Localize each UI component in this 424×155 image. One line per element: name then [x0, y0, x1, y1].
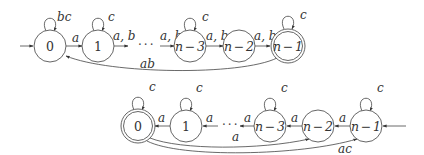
- state-label: n − 3: [255, 119, 285, 134]
- edge-label-1-0: a: [158, 111, 165, 125]
- self-loop-1: [180, 98, 191, 111]
- loop-label-0: c: [149, 80, 156, 94]
- state-label: n − 2: [303, 119, 333, 134]
- edge-label-dots-1: a: [206, 111, 213, 125]
- self-loop-0: [132, 97, 143, 110]
- state-label: 1: [182, 119, 190, 134]
- self-loop-0: [44, 18, 55, 31]
- edge-label-0-1: a: [72, 31, 79, 45]
- state-n-2: n − 2: [302, 110, 334, 142]
- self-loop-n-1: [360, 98, 371, 111]
- edge-label-1-dots: a, b: [113, 29, 135, 43]
- loop-label-1: c: [196, 81, 203, 95]
- state-1: 1: [170, 110, 202, 142]
- state-label: 0: [46, 39, 54, 54]
- state-1: 1: [82, 30, 114, 62]
- automata-diagram: bc c c c a a, b ··· a, b a, b a, b ab 0 …: [0, 0, 424, 155]
- loop-label-n-3: c: [202, 10, 209, 24]
- state-label: n − 1: [351, 119, 381, 134]
- edge-label-0-n-2: a: [232, 130, 239, 144]
- self-loop-n-1: [282, 16, 293, 29]
- state-label: n − 3: [175, 39, 205, 54]
- top-automaton: bc c c c a a, b ··· a, b a, b a, b ab 0 …: [20, 8, 307, 71]
- state-label: n − 1: [273, 39, 303, 54]
- self-loop-n-3: [264, 98, 275, 111]
- state-n-1: n − 1: [350, 110, 382, 142]
- edge-label-n-2-n-3: a: [291, 111, 298, 125]
- edge-0-n-1: [147, 139, 357, 153]
- state-n-3: n − 3: [174, 30, 206, 62]
- self-loop-n-3: [184, 18, 195, 31]
- edge-0-n-2: [150, 138, 309, 147]
- loop-label-1: c: [108, 10, 115, 24]
- edge-label-n-1-n-2: a: [339, 111, 346, 125]
- ellipsis: ···: [138, 38, 155, 52]
- state-label: n − 2: [224, 39, 254, 54]
- bottom-automaton: c c c c a a ··· a a a a ac 0 1: [121, 80, 406, 155]
- loop-label-n-1: c: [377, 81, 384, 95]
- state-n-2: n − 2: [223, 30, 255, 62]
- state-n-1-accepting: n − 1: [271, 29, 305, 63]
- self-loop-1: [92, 18, 103, 31]
- state-label: 1: [94, 39, 102, 54]
- edge-label-0-n-1: ac: [338, 142, 352, 155]
- edge-label-n-3-dots: a: [244, 111, 251, 125]
- state-0: 0: [34, 30, 66, 62]
- state-n-3: n − 3: [254, 110, 286, 142]
- loop-label-n-3: c: [281, 81, 288, 95]
- state-0-accepting: 0: [121, 109, 155, 143]
- edge-label-n-1-0: ab: [140, 57, 155, 71]
- state-label: 0: [134, 119, 142, 134]
- loop-label-0: bc: [57, 10, 72, 24]
- loop-label-n-1: c: [300, 8, 307, 22]
